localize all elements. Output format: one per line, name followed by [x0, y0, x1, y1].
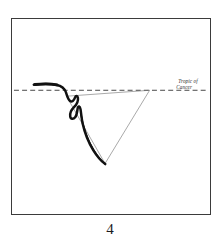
- paper-background: [12, 19, 210, 214]
- figure-number-caption: 4: [0, 219, 220, 239]
- curve-plateau-segment: [35, 84, 57, 85]
- tropic-label-line-2: Cancer: [176, 84, 193, 90]
- plate-frame-border: Tropic of Cancer: [11, 18, 211, 215]
- figure-plate: Tropic of Cancer 4: [0, 0, 220, 242]
- diagram-canvas: Tropic of Cancer: [12, 19, 210, 214]
